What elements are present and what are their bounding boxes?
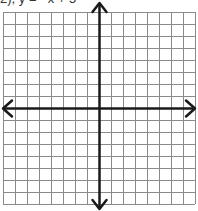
y-axis [93,3,107,209]
axes [3,3,195,209]
coordinate-plane [0,0,198,211]
